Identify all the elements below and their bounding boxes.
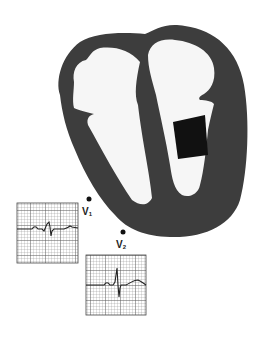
v1-electrode-dot (87, 197, 92, 202)
infarct-region (173, 115, 208, 159)
v1-label-sub: 1 (89, 211, 92, 217)
v1-label-main: V (82, 206, 89, 217)
ecg-strip-v1 (17, 203, 78, 263)
ecg-strip-v2 (86, 255, 146, 315)
v2-label-main: V (116, 239, 123, 250)
v1-lead-label: V1 (82, 207, 92, 217)
v2-lead-label: V2 (116, 240, 126, 250)
v2-electrode-dot (121, 230, 126, 235)
v2-label-sub: 2 (123, 244, 126, 250)
heart-diagram (0, 0, 261, 340)
